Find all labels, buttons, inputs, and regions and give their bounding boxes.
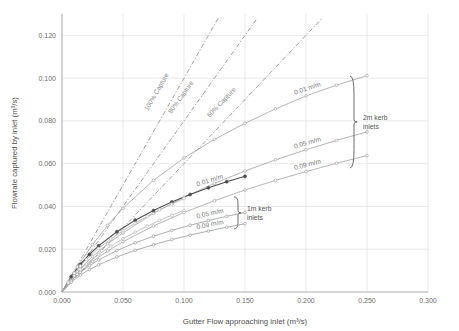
y-tick-label: 0.120 bbox=[38, 32, 56, 39]
series-marker bbox=[91, 243, 94, 246]
series-marker bbox=[305, 95, 308, 98]
series-marker bbox=[366, 154, 369, 157]
series-marker bbox=[244, 222, 247, 225]
series-marker bbox=[79, 265, 82, 268]
series-marker bbox=[213, 199, 216, 202]
series-marker bbox=[88, 268, 91, 271]
series-marker bbox=[122, 237, 125, 240]
group-label-line2: inlets bbox=[363, 123, 379, 130]
y-axis-title: Flowrate captured by inlet (m³/s) bbox=[10, 97, 19, 209]
chart-container: 0.0000.0500.1000.1500.2000.2500.3000.000… bbox=[0, 0, 459, 331]
series-marker bbox=[170, 229, 173, 232]
series-marker bbox=[122, 229, 125, 232]
series-marker bbox=[305, 170, 308, 173]
group-label-line1: 2m kerb bbox=[363, 114, 388, 121]
series-marker bbox=[79, 274, 82, 277]
series-marker bbox=[244, 211, 247, 214]
series-marker bbox=[244, 122, 247, 125]
series-marker bbox=[170, 214, 173, 217]
series-marker bbox=[85, 258, 88, 261]
x-tick-label: 0.000 bbox=[53, 297, 71, 304]
series-marker bbox=[207, 230, 210, 233]
series-marker bbox=[88, 253, 91, 256]
series-marker bbox=[152, 235, 155, 238]
series-marker bbox=[207, 186, 210, 189]
y-tick-label: 0.020 bbox=[38, 246, 56, 253]
y-tick-label: 0.000 bbox=[38, 289, 56, 296]
y-tick-label: 0.080 bbox=[38, 117, 56, 124]
chart-svg: 0.0000.0500.1000.1500.2000.2500.3000.000… bbox=[0, 0, 459, 331]
series-marker bbox=[109, 245, 112, 248]
series-marker bbox=[213, 182, 216, 185]
series-marker bbox=[366, 74, 369, 77]
series-marker bbox=[116, 249, 119, 252]
series-marker bbox=[115, 230, 118, 233]
series-marker bbox=[79, 268, 82, 271]
x-tick-label: 0.150 bbox=[236, 297, 254, 304]
series-marker bbox=[189, 234, 192, 237]
series-marker bbox=[67, 282, 70, 285]
group-label-line1: 1m kerb bbox=[247, 205, 272, 212]
series-marker bbox=[152, 243, 155, 246]
series-marker bbox=[134, 222, 137, 225]
series-marker bbox=[97, 263, 100, 266]
series-marker bbox=[97, 259, 100, 262]
series-marker bbox=[73, 274, 76, 277]
series-marker bbox=[70, 281, 73, 284]
series-marker bbox=[122, 240, 125, 243]
series-marker bbox=[158, 209, 161, 212]
series-marker bbox=[335, 139, 338, 142]
series-marker bbox=[152, 179, 155, 182]
series-marker bbox=[189, 224, 192, 227]
series-marker bbox=[225, 180, 228, 183]
series-marker bbox=[106, 250, 109, 253]
series-marker bbox=[134, 219, 137, 222]
y-tick-label: 0.040 bbox=[38, 203, 56, 210]
series-marker bbox=[225, 226, 228, 229]
series-marker bbox=[189, 193, 192, 196]
x-tick-label: 0.200 bbox=[297, 297, 315, 304]
series-marker bbox=[183, 157, 186, 160]
series-marker bbox=[79, 271, 82, 274]
series-marker bbox=[274, 108, 277, 111]
x-tick-label: 0.100 bbox=[175, 297, 193, 304]
series-marker bbox=[213, 138, 216, 141]
series-marker bbox=[76, 266, 79, 269]
series-marker bbox=[97, 253, 100, 256]
series-marker bbox=[183, 197, 186, 200]
series-marker bbox=[91, 255, 94, 258]
series-marker bbox=[335, 162, 338, 165]
series-marker bbox=[183, 209, 186, 212]
series-marker bbox=[225, 215, 228, 218]
series-marker bbox=[134, 241, 137, 244]
group-label-line2: inlets bbox=[247, 214, 263, 221]
series-marker bbox=[134, 249, 137, 252]
series-marker bbox=[244, 175, 247, 178]
series-marker bbox=[134, 231, 137, 234]
series-marker bbox=[274, 179, 277, 182]
series-marker bbox=[109, 238, 112, 241]
series-marker bbox=[91, 260, 94, 263]
series-marker bbox=[274, 158, 277, 161]
series-marker bbox=[305, 148, 308, 151]
series-marker bbox=[97, 247, 100, 250]
x-tick-label: 0.050 bbox=[114, 297, 132, 304]
series-marker bbox=[88, 264, 91, 267]
series-marker bbox=[244, 170, 247, 173]
series-marker bbox=[366, 130, 369, 133]
y-tick-label: 0.100 bbox=[38, 75, 56, 82]
series-marker bbox=[170, 203, 173, 206]
series-marker bbox=[244, 189, 247, 192]
series-marker bbox=[70, 275, 73, 278]
series-marker bbox=[170, 238, 173, 241]
series-marker bbox=[76, 273, 79, 276]
x-tick-label: 0.300 bbox=[419, 297, 437, 304]
series-marker bbox=[106, 224, 109, 227]
x-axis-title: Gutter Flow approaching inlet (m³/s) bbox=[183, 317, 308, 326]
series-marker bbox=[152, 209, 155, 212]
series-marker bbox=[106, 243, 109, 246]
series-marker bbox=[146, 225, 149, 228]
y-tick-label: 0.060 bbox=[38, 160, 56, 167]
series-marker bbox=[335, 84, 338, 87]
series-marker bbox=[116, 256, 119, 259]
